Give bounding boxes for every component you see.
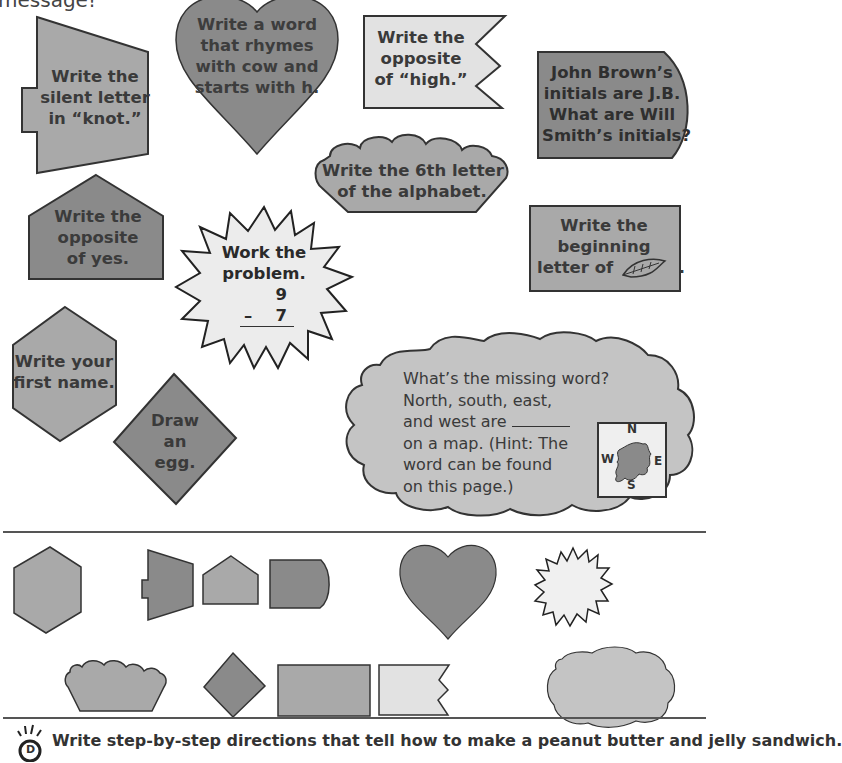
answer-half-round[interactable]	[270, 560, 329, 608]
answer-hexagon[interactable]	[14, 547, 81, 633]
problem-operator: –	[240, 305, 252, 326]
answer-trapezoid[interactable]	[142, 550, 193, 620]
compass-n: N	[627, 422, 637, 436]
heart-text: Write a wordthat rhymeswith cow andstart…	[184, 14, 330, 98]
footer-prompt: Write step-by-step directions that tell …	[52, 731, 842, 750]
compass-w: W	[601, 452, 614, 466]
starburst-text: Work theproblem.	[214, 242, 314, 284]
shape-rectangle[interactable]: Write thebeginning letter of .	[529, 205, 681, 292]
banner-text: Write theoppositeof “high.”	[366, 27, 476, 90]
header-fragment: message!	[0, 0, 96, 12]
answer-blank	[512, 411, 570, 427]
shape-cloud[interactable]: What’s the missing word? North, south, e…	[340, 325, 700, 520]
divider-top	[3, 531, 706, 533]
compass-s: S	[627, 478, 636, 492]
leaf-icon	[619, 257, 667, 279]
diamond-text: Drawanegg.	[137, 410, 213, 473]
shape-hexagon[interactable]: Write yourfirst name.	[10, 305, 120, 443]
shape-half-round[interactable]: John Brown’sinitials are J.B.What are Wi…	[536, 50, 692, 160]
trapezoid-text: Write thesilent letterin “knot.”	[40, 66, 150, 129]
shape-starburst[interactable]: Work theproblem. 9 – 7	[174, 205, 354, 370]
answer-shapes	[0, 535, 706, 715]
math-problem: 9 – 7	[240, 284, 294, 327]
shape-banner[interactable]: Write theoppositeof “high.”	[362, 14, 507, 110]
lightbulb-letter: D	[26, 743, 35, 756]
problem-top-number: 9	[240, 284, 294, 305]
answer-pentagon[interactable]	[203, 556, 258, 604]
shape-scalloped-bowl[interactable]: Write the 6th letterof the alphabet.	[312, 130, 512, 216]
rectangle-text: Write thebeginning letter of .	[529, 215, 679, 279]
divider-bottom	[3, 717, 706, 719]
half-round-text: John Brown’sinitials are J.B.What are Wi…	[542, 62, 682, 146]
lightbulb-icon: D	[10, 722, 50, 762]
shape-trapezoid[interactable]: Write thesilent letterin “knot.”	[18, 14, 153, 174]
compass-map: N S E W	[597, 422, 667, 498]
scalloped-bowl-text: Write the 6th letterof the alphabet.	[322, 160, 502, 202]
answer-rectangle[interactable]	[278, 665, 370, 716]
answer-scalloped-bowl[interactable]	[65, 661, 166, 711]
lightbulb-graphic	[10, 722, 50, 762]
answer-banner[interactable]	[379, 665, 449, 715]
shape-pentagon[interactable]: Write theoppositeof yes.	[27, 172, 167, 282]
answer-heart[interactable]	[400, 545, 496, 639]
shape-diamond[interactable]: Drawanegg.	[112, 372, 238, 506]
answer-starburst[interactable]	[535, 548, 612, 626]
answer-cloud[interactable]	[547, 647, 674, 727]
problem-bottom-number: 7	[276, 306, 287, 325]
hexagon-text: Write yourfirst name.	[8, 351, 120, 393]
compass-e: E	[654, 454, 662, 468]
answer-diamond[interactable]	[204, 653, 265, 717]
pentagon-text: Write theoppositeof yes.	[45, 206, 151, 269]
